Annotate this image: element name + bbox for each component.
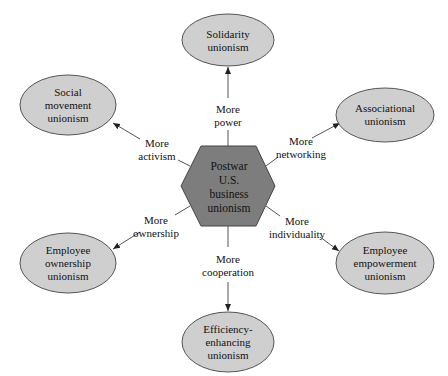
- edge-line: More: [133, 214, 179, 227]
- edge-label-power: More power: [214, 103, 242, 129]
- edge-label-activism: More activism: [138, 137, 175, 163]
- node-line: unionism: [203, 349, 252, 362]
- node-associational: Associational unionism: [355, 102, 415, 128]
- node-line: unionism: [355, 115, 415, 128]
- node-line: Employee: [354, 244, 417, 257]
- node-line: ownership: [45, 257, 91, 270]
- edge-label-networking: More networking: [276, 135, 326, 161]
- edge-label-cooperation: More cooperation: [202, 253, 254, 279]
- node-employee-ownership: Employee ownership unionism: [45, 244, 91, 283]
- node-line: Social: [45, 86, 91, 99]
- node-line: enhancing: [203, 336, 252, 349]
- edge-label-individuality: More individuality: [269, 215, 325, 241]
- node-efficiency-enhancing: Efficiency- enhancing unionism: [203, 323, 252, 362]
- node-employee-empowerment: Employee empowerment unionism: [354, 244, 417, 283]
- edge-activism-stub: [178, 160, 190, 166]
- edge-line: More: [138, 137, 175, 150]
- edge-line: More: [202, 253, 254, 266]
- center-label: Postwar U.S. business unionism: [208, 159, 251, 215]
- edge-line: More: [214, 103, 242, 116]
- edge-line: individuality: [269, 228, 325, 241]
- node-line: Employee: [45, 244, 91, 257]
- edge-line: networking: [276, 148, 326, 161]
- node-line: Efficiency-: [203, 323, 252, 336]
- node-line: empowerment: [354, 257, 417, 270]
- edge-label-ownership: More ownership: [133, 214, 179, 240]
- center-line-3: business: [208, 187, 251, 201]
- edge-line: More: [269, 215, 325, 228]
- center-line-4: unionism: [208, 201, 251, 215]
- edge-line: ownership: [133, 227, 179, 240]
- node-line: Associational: [355, 102, 415, 115]
- node-line: unionism: [354, 270, 417, 283]
- node-line: movement: [45, 99, 91, 112]
- edge-line: More: [276, 135, 326, 148]
- node-line: unionism: [45, 112, 91, 125]
- edge-line: cooperation: [202, 266, 254, 279]
- node-line: Solidarity: [206, 28, 249, 41]
- node-solidarity: Solidarity unionism: [206, 28, 249, 54]
- center-line-1: Postwar: [208, 159, 251, 173]
- edge-activism-arrow: [113, 123, 140, 139]
- edge-line: activism: [138, 150, 175, 163]
- center-line-2: U.S.: [208, 173, 251, 187]
- edge-line: power: [214, 116, 242, 129]
- node-line: unionism: [206, 41, 249, 54]
- node-social-movement: Social movement unionism: [45, 86, 91, 125]
- node-line: unionism: [45, 270, 91, 283]
